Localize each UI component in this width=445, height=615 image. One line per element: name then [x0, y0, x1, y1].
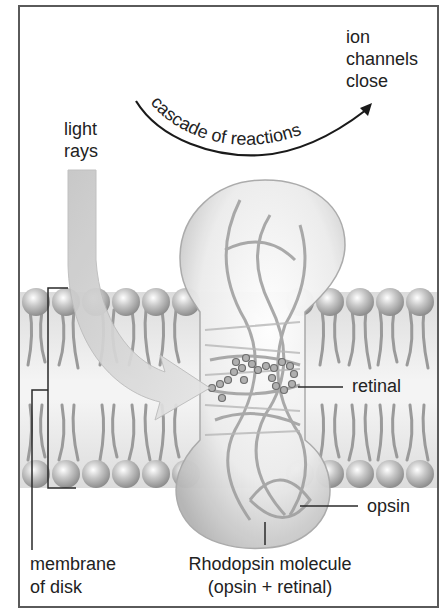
rhodopsin-line-2: (opsin + retinal)	[175, 576, 365, 599]
light-rays-label: light rays	[64, 118, 98, 162]
light-rays-line-1: light	[64, 118, 98, 140]
membrane-line-1: membrane	[30, 553, 116, 576]
cascade-label: cascade of reactions	[147, 92, 303, 149]
ion-channels-line-1: ion	[346, 26, 418, 48]
rhodopsin-label: Rhodopsin molecule (opsin + retinal)	[175, 553, 365, 599]
ion-channels-label: ion channels close	[346, 26, 418, 92]
ion-channels-line-3: close	[346, 70, 418, 92]
opsin-label: opsin	[367, 496, 410, 516]
rhodopsin-line-1: Rhodopsin molecule	[175, 553, 365, 576]
retinal-label: retinal	[352, 376, 401, 396]
rhodopsin-illustration: cascade of reactions	[0, 0, 445, 615]
ion-channels-line-2: channels	[346, 48, 418, 70]
membrane-line-2: of disk	[30, 576, 116, 599]
membrane-of-disk-label: membrane of disk	[30, 553, 116, 599]
light-rays-line-2: rays	[64, 140, 98, 162]
